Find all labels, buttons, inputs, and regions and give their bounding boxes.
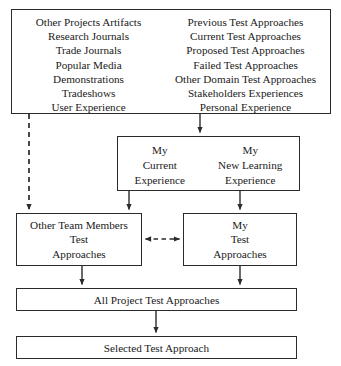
source-item: Previous Test Approaches <box>188 15 304 29</box>
box-line: Approaches <box>213 247 266 262</box>
box-line: Approaches <box>52 247 105 262</box>
source-item: Research Journals <box>48 29 129 43</box>
my-test-approaches-box: My Test Approaches <box>183 213 297 266</box>
experience-columns: My Current Experience My New Learning Ex… <box>118 140 299 188</box>
experience-box: My Current Experience My New Learning Ex… <box>117 136 300 191</box>
source-item: User Experience <box>51 100 125 114</box>
source-item: Demonstrations <box>53 72 124 86</box>
other-team-members-test-approaches-box: Other Team Members Test Approaches <box>16 213 142 266</box>
source-item: Popular Media <box>55 58 121 72</box>
experience-line: Current <box>143 158 177 173</box>
source-item: Trade Journals <box>56 43 122 57</box>
sources-box: Other Projects Artifacts Research Journa… <box>11 9 331 114</box>
box-line: Test <box>70 232 88 247</box>
selected-test-approach-bar: Selected Test Approach <box>16 336 297 359</box>
source-item: Stakeholders Experiences <box>188 86 303 100</box>
source-item: Failed Test Approaches <box>193 58 298 72</box>
experience-line: My <box>152 143 168 158</box>
bar-label: All Project Test Approaches <box>94 294 219 306</box>
source-item: Other Domain Test Approaches <box>175 72 316 86</box>
box-line: My <box>232 218 248 233</box>
test-approach-flow-diagram: Other Projects Artifacts Research Journa… <box>0 0 341 366</box>
box-line: Test <box>231 232 249 247</box>
experience-line: Experience <box>225 173 275 188</box>
sources-columns: Other Projects Artifacts Research Journa… <box>12 13 330 113</box>
source-item: Personal Experience <box>200 100 292 114</box>
source-item: Proposed Test Approaches <box>186 43 304 57</box>
box-line: Other Team Members <box>30 218 128 233</box>
experience-line: New Learning <box>218 158 282 173</box>
sources-left-column: Other Projects Artifacts Research Journa… <box>14 13 163 113</box>
source-item: Other Projects Artifacts <box>36 15 142 29</box>
experience-line: Experience <box>135 173 185 188</box>
source-item: Current Test Approaches <box>190 29 301 43</box>
my-current-experience-group: My Current Experience <box>135 143 185 188</box>
my-new-learning-experience-group: My New Learning Experience <box>218 143 282 188</box>
sources-right-column: Previous Test Approaches Current Test Ap… <box>163 13 328 113</box>
source-item: Tradeshows <box>62 86 116 100</box>
experience-line: My <box>242 143 258 158</box>
all-project-test-approaches-bar: All Project Test Approaches <box>16 288 297 311</box>
bar-label: Selected Test Approach <box>104 342 209 354</box>
